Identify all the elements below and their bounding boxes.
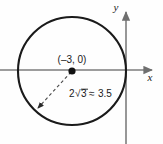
y-axis-label: y [113,1,119,13]
coordinate-plane-svg: y x (–3, 0) 2 √ 3 ≈ 3.5 [0,0,163,144]
radius-label-value: 3.5 [98,88,112,99]
center-point-label: (–3, 0) [58,54,87,65]
approx-equals-symbol: ≈ [89,88,95,99]
radius-label-group: 2 √ 3 ≈ 3.5 [69,88,112,99]
radius-label-radicand: 3 [81,88,87,99]
radius-dashed-line [38,72,71,108]
geometry-figure: y x (–3, 0) 2 √ 3 ≈ 3.5 [0,0,163,144]
center-point-dot [68,67,75,74]
x-axis-label: x [147,71,153,83]
